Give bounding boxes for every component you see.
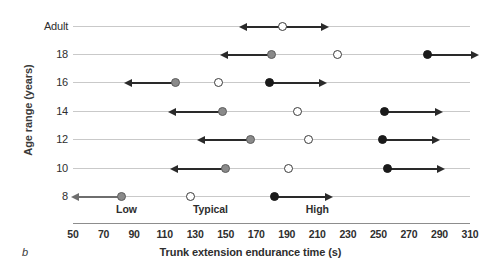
arrow-head-icon [239,23,247,31]
x-tick-label: 190 [278,228,295,240]
arrow-head-icon [325,193,333,201]
arrow-head-icon [220,51,228,59]
data-point-typical [186,192,195,201]
panel-label: b [22,246,28,258]
data-point-low [221,164,230,173]
y-tick-label-8: 8 [0,188,68,204]
arrow-left [131,82,175,84]
y-tick-label-adult: Adult [0,18,68,34]
x-tick-label: 70 [98,228,109,240]
chart-row: 8 [0,188,501,204]
y-tick-label-16: 16 [0,74,68,90]
x-tick-label: 150 [217,228,234,240]
arrow-right [384,111,436,113]
arrow-head-icon [321,23,329,31]
data-point-high [270,192,279,201]
chart-row: 18 [0,46,501,62]
y-tick-label-18: 18 [0,46,68,62]
data-point-low [117,192,126,201]
data-point-typical [214,78,223,87]
data-point-typical [333,50,342,59]
arrow-left [78,196,122,198]
x-tick-label: 210 [309,228,326,240]
arrow-head-icon [124,79,132,87]
chart-row: Adult [0,18,501,34]
arrow-head-icon [319,79,327,87]
arrow-head-icon [197,136,205,144]
x-tick-label: 110 [156,228,172,240]
y-tick-label-10: 10 [0,160,68,176]
arrow-head-icon [432,136,440,144]
data-point-low [218,107,227,116]
arrow-head-icon [71,193,79,201]
arrow-head-icon [168,108,176,116]
plot-area: Adult18161412108LowTypicalHigh5070901101… [0,0,501,271]
arrow-right [427,54,471,56]
figure-panel-b: Age range (years) Adult18161412108LowTyp… [0,0,501,271]
arrow-head-icon [437,165,445,173]
data-point-high [265,78,274,87]
x-axis-title: Trunk extension endurance time (s) [0,246,501,258]
x-tick-label: 130 [187,228,204,240]
chart-row: 10 [0,160,501,176]
x-axis-line [73,223,470,224]
arrow-right [275,196,327,198]
x-tick-label: 50 [67,228,78,240]
arrow-left [227,54,271,56]
data-point-low [171,78,180,87]
data-point-high [380,107,389,116]
chart-row: 14 [0,103,501,119]
band-label-high: High [306,203,329,215]
data-point-typical [304,135,313,144]
arrow-right [383,139,433,141]
data-point-low [267,50,276,59]
arrow-right [282,26,322,28]
arrow-head-icon [435,108,443,116]
x-tick-label: 310 [462,228,479,240]
arrow-left [246,26,283,28]
arrow-head-icon [471,51,479,59]
data-point-low [246,135,255,144]
arrow-head-icon [170,165,178,173]
arrow-right [270,82,320,84]
data-point-typical [293,107,302,116]
x-tick-label: 270 [400,228,417,240]
band-label-typical: Typical [193,203,228,215]
data-point-typical [284,164,293,173]
data-point-typical [278,22,287,31]
chart-row: 12 [0,131,501,147]
x-tick-label: 290 [431,228,448,240]
data-point-high [378,135,387,144]
band-label-low: Low [116,203,137,215]
x-tick-label: 90 [128,228,139,240]
x-tick-label: 170 [248,228,265,240]
data-point-high [383,164,392,173]
arrow-left [177,168,226,170]
data-point-high [423,50,432,59]
chart-row: 16 [0,74,501,90]
x-tick-label: 230 [339,228,356,240]
x-tick-label: 250 [370,228,387,240]
y-tick-label-12: 12 [0,131,68,147]
y-tick-label-14: 14 [0,103,68,119]
arrow-right [388,168,438,170]
arrow-left [175,111,222,113]
arrow-left [204,139,250,141]
